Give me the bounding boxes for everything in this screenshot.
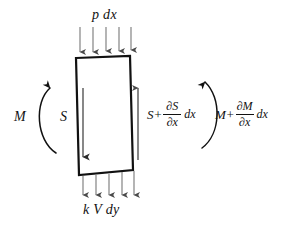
moment-left-label: M [14,110,26,124]
shear-right-label: S+ ∂S ∂x dx [147,100,196,128]
moment-right-numerator: ∂M [236,100,254,114]
top-load-label: p dx [92,8,117,22]
beam-element-body [76,56,133,175]
shear-right-fraction: ∂S ∂x [163,100,181,128]
shear-right-base: S+ [147,108,162,121]
moment-right-label: M+ ∂M ∂x dx [215,100,268,128]
beam-element-diagram: p dx k V dy M S S+ ∂S ∂x dx M+ ∂M ∂x dx [0,0,292,225]
shear-left-label: S [60,110,67,124]
moment-right-base: M+ [215,108,235,121]
top-load-arrows [80,27,131,52]
moment-left-arc [39,88,56,153]
moment-right-differential: dx [257,108,268,120]
shear-right-differential: dx [184,108,195,120]
moment-right-denominator: ∂x [238,115,251,129]
bottom-load-label: k V dy [83,203,120,217]
shear-right-denominator: ∂x [166,115,179,129]
shear-right-numerator: ∂S [165,100,179,114]
moment-right-fraction: ∂M ∂x [236,100,254,128]
